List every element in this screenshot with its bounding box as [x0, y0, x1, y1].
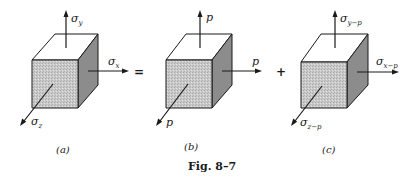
cube-front-face [301, 62, 347, 108]
arrowhead-right-icon [122, 69, 129, 74]
arrow-x-label: p [252, 55, 259, 68]
cube-front-face [32, 60, 78, 108]
arrowhead-up-icon [333, 10, 338, 17]
cube-front-face [166, 60, 212, 108]
arrow-z-label: σz [31, 115, 43, 130]
arrow-y-label: p [206, 11, 213, 24]
arrowhead-right-icon [392, 70, 399, 75]
figure-caption: Fig. 8–7 [188, 160, 236, 173]
stress-superposition-figure: σy σx σz (a) = p p [0, 0, 418, 177]
arrow-z-label: p [166, 116, 173, 129]
arrow-y-label: σy−p [340, 12, 362, 27]
panel-a: σy σx σz (a) [20, 10, 129, 155]
panel-c: σy−p σx−p σz−p (c) [291, 10, 399, 155]
arrow-z-label: σz−p [300, 116, 322, 131]
arrow-y-label: σy [71, 12, 84, 27]
plus-sign: + [276, 65, 286, 79]
panel-label: (c) [322, 144, 336, 155]
panel-label: (b) [184, 141, 198, 152]
panel-label: (a) [56, 144, 70, 155]
equals-sign: = [134, 65, 144, 79]
arrow-x-label: σx−p [376, 55, 398, 70]
arrowhead-up-icon [64, 10, 69, 17]
arrowhead-right-icon [255, 69, 262, 74]
arrow-x-label: σx [108, 55, 120, 70]
arrowhead-up-icon [198, 10, 203, 17]
panel-b: p p p (b) [156, 10, 262, 152]
